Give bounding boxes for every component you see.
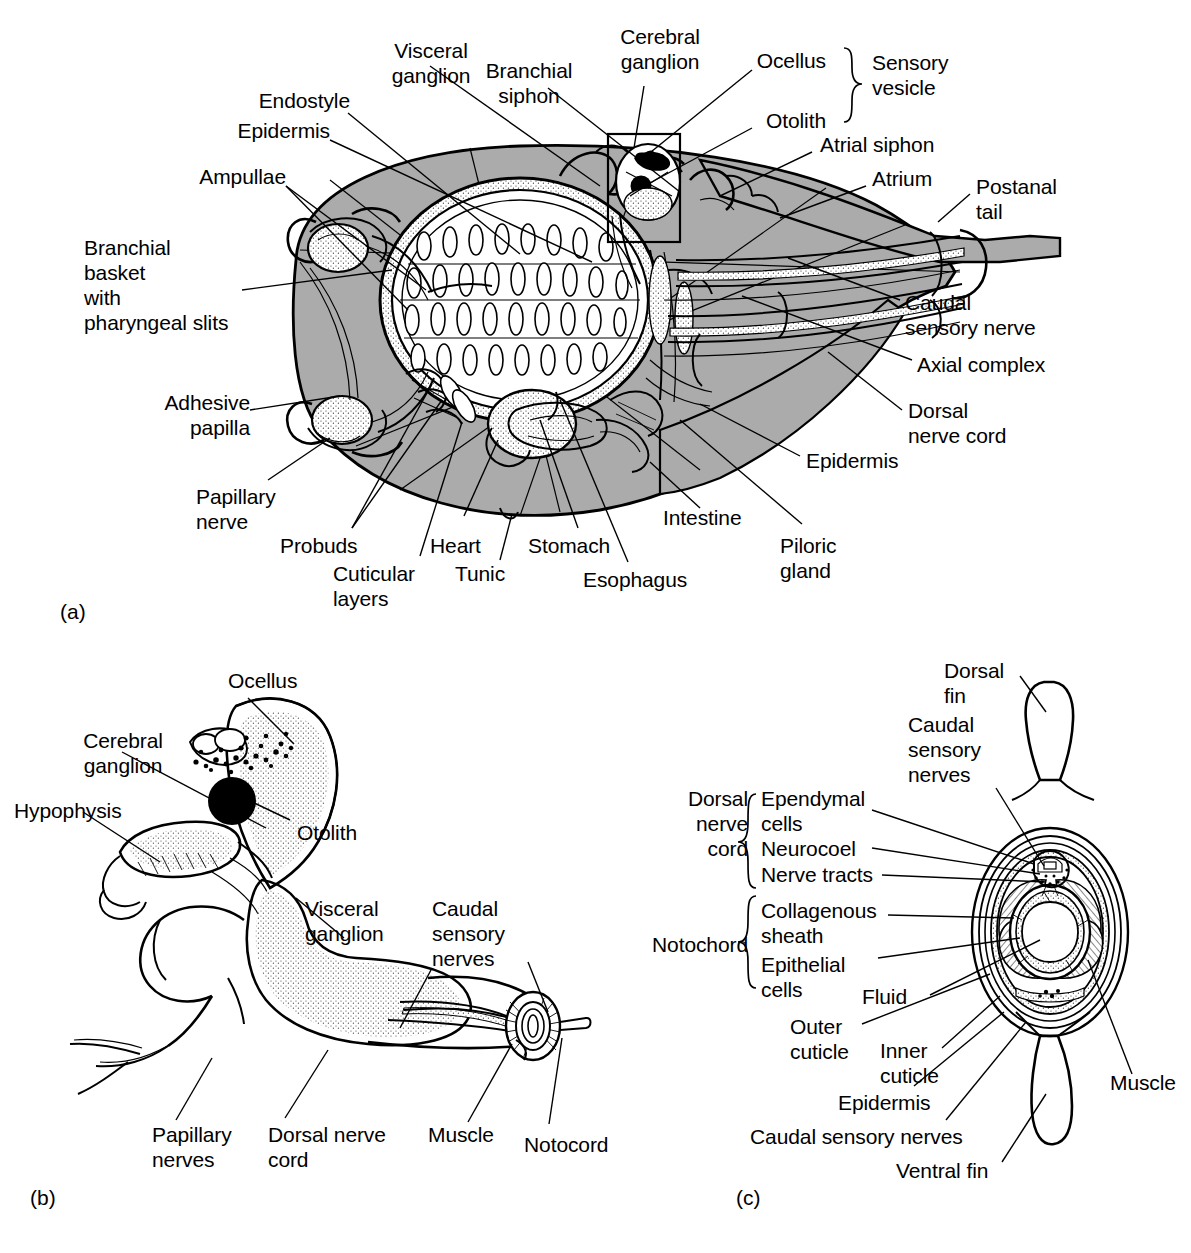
- label-visceral-ganglion-b: Visceral ganglion: [305, 896, 445, 946]
- label-esophagus: Esophagus: [583, 567, 723, 592]
- label-nerve-tracts: Nerve tracts: [761, 862, 951, 887]
- label-ocellus: Ocellus: [660, 48, 826, 73]
- label-neurocoel: Neurocoel: [761, 836, 931, 861]
- label-dorsal-nerve-cord-c: Dorsal nerve cord: [616, 786, 748, 861]
- label-branchial-siphon: Branchial siphon: [455, 58, 603, 108]
- label-intestine: Intestine: [663, 505, 793, 530]
- label-pyloric-gland: Piloric gland: [780, 533, 900, 583]
- label-dorsal-fin: Dorsal fin: [944, 658, 1064, 708]
- label-heart: Heart: [430, 533, 530, 558]
- panel-c-caption: (c): [736, 1186, 761, 1210]
- label-ependymal-cells: Ependymal cells: [761, 786, 931, 836]
- b-papillary-loop: [70, 907, 244, 1095]
- b-cut-end: [506, 992, 591, 1060]
- label-ventral-fin: Ventral fin: [896, 1158, 1076, 1183]
- label-fluid: Fluid: [862, 984, 962, 1009]
- anatomy-figure: Visceral ganglion Branchial siphon Cereb…: [0, 0, 1191, 1253]
- label-hypophysis: Hypophysis: [14, 798, 174, 823]
- label-probuds: Probuds: [280, 533, 420, 558]
- label-epidermis-right: Epidermis: [806, 448, 966, 473]
- sensory-vesicle-detail: [616, 144, 680, 220]
- label-atrial-siphon: Atrial siphon: [820, 132, 1010, 157]
- label-ocellus-b: Ocellus: [228, 668, 368, 693]
- label-caudal-sensory-nerves-c2: Caudal sensory nerves: [750, 1124, 1050, 1149]
- label-collagenous-sheath: Collagenous sheath: [761, 898, 951, 948]
- label-cerebral-ganglion-b: Cerebral ganglion: [48, 728, 198, 778]
- panel-b-caption: (b): [30, 1186, 56, 1210]
- label-inner-cuticle: Inner cuticle: [880, 1038, 1000, 1088]
- label-epidermis-top: Epidermis: [180, 118, 330, 143]
- label-axial-complex: Axial complex: [917, 352, 1117, 377]
- label-dorsal-nerve-cord-b: Dorsal nerve cord: [268, 1122, 438, 1172]
- label-endostyle: Endostyle: [200, 88, 350, 113]
- label-ampullae: Ampullae: [136, 164, 286, 189]
- label-caudal-sensory-nerves-c: Caudal sensory nerves: [908, 712, 1038, 787]
- label-muscle-c: Muscle: [1110, 1070, 1191, 1095]
- label-adhesive-papilla: Adhesive papilla: [110, 390, 250, 440]
- label-papillary-nerve: Papillary nerve: [196, 484, 346, 534]
- label-epidermis-c: Epidermis: [838, 1090, 988, 1115]
- sensory-vesicle-brace: [844, 48, 862, 122]
- label-notocord-b: Notocord: [524, 1132, 664, 1157]
- label-caudal-sensory-nerves-b: Caudal sensory nerves: [432, 896, 572, 971]
- label-caudal-sensory-nerve: Caudal sensory nerve: [905, 290, 1105, 340]
- label-otolith: Otolith: [660, 108, 826, 133]
- label-sensory-vesicle: Sensory vesicle: [872, 50, 1032, 100]
- label-tunic: Tunic: [455, 561, 555, 586]
- label-dorsal-nerve-cord-a: Dorsal nerve cord: [908, 398, 1088, 448]
- label-branchial-basket: Branchial basket with pharyngeal slits: [84, 235, 314, 335]
- panel-a-caption: (a): [60, 600, 86, 624]
- label-postanal-tail: Postanal tail: [976, 174, 1106, 224]
- label-muscle-b: Muscle: [428, 1122, 538, 1147]
- label-stomach: Stomach: [528, 533, 648, 558]
- label-otolith-b: Otolith: [297, 820, 427, 845]
- label-cuticular-layers: Cuticular layers: [333, 561, 473, 611]
- label-notochord-c: Notochord: [616, 932, 748, 957]
- c-notochord-fluid: [1022, 902, 1078, 962]
